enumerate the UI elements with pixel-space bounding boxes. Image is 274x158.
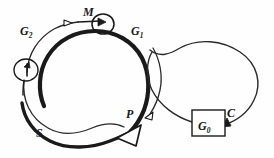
c-label: C — [227, 107, 235, 119]
g2-arrowhead-icon — [64, 20, 72, 26]
main-cycle-bottom-arc — [22, 103, 129, 147]
m-phase-connector — [78, 21, 100, 22]
g1-phase-label: G1 — [131, 25, 143, 40]
s-phase-label: S — [36, 127, 43, 139]
restriction-loop-arrowhead-icon — [24, 62, 30, 68]
diagram-figure: G1 G2 M S P C G0 — [0, 0, 274, 158]
g0-phase-label: G0 — [198, 120, 210, 135]
g1-arrowhead-icon — [145, 112, 153, 120]
p-arrowhead-icon — [117, 125, 141, 146]
g1-exit-curve — [150, 48, 161, 114]
m-phase-label: M — [83, 6, 94, 18]
restriction-point-loop — [14, 59, 38, 81]
m-arrowhead-icon — [98, 18, 106, 26]
right-loop-return — [148, 52, 193, 122]
g2-phase-label: G2 — [20, 25, 32, 40]
p-point-label: P — [126, 108, 133, 120]
